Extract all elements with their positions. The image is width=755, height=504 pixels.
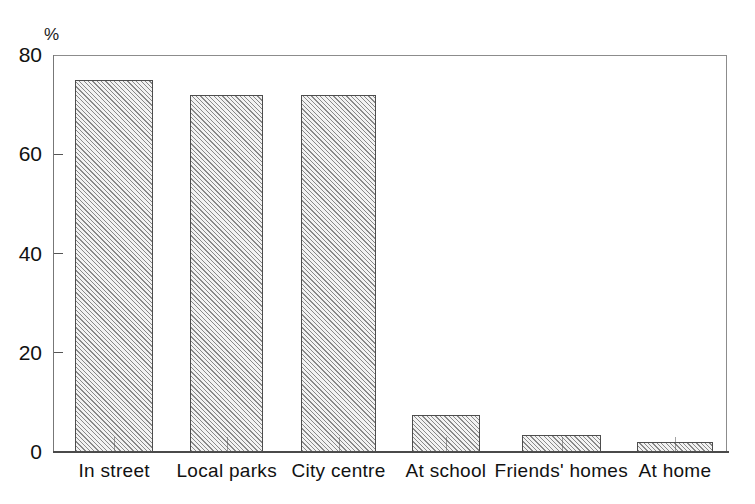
bar xyxy=(522,435,601,452)
bar xyxy=(75,80,153,452)
x-category-label: At home xyxy=(639,460,712,482)
x-category-label: City centre xyxy=(292,460,386,482)
bar xyxy=(301,95,376,452)
bar-chart: % 020406080 In streetLocal parksCity cen… xyxy=(0,0,755,504)
bars-layer xyxy=(0,0,755,504)
bar xyxy=(637,442,713,452)
x-category-label: Friends' homes xyxy=(495,460,629,482)
x-category-label: Local parks xyxy=(177,460,277,482)
x-category-label: In street xyxy=(79,460,150,482)
bar xyxy=(412,415,480,452)
x-category-label: At school xyxy=(406,460,487,482)
bar xyxy=(190,95,263,452)
